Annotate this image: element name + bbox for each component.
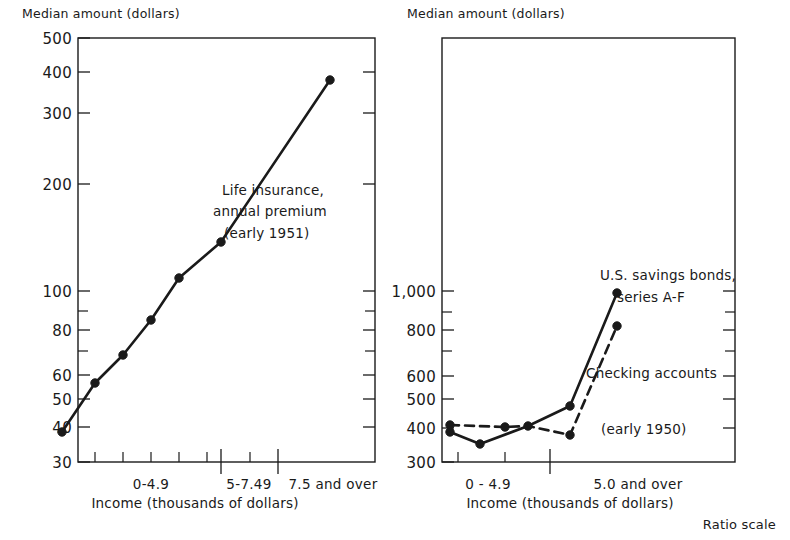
left-annotation-line1: Life insurance,	[222, 182, 324, 198]
left-x-axis-caption: Income (thousands of dollars)	[91, 495, 298, 511]
figure-root: Median amount (dollars)	[0, 0, 790, 540]
left-ytick-500: 500	[42, 30, 72, 48]
left-ytick-60: 60	[52, 367, 72, 385]
left-ytick-30: 30	[52, 454, 72, 472]
left-plot-frame	[78, 38, 375, 462]
left-xtick-5-7.49: 5-7.49	[226, 476, 271, 492]
right-chart-svg: 1,000 800 600 500 400 300 0 - 4.9 5.0 an…	[395, 0, 790, 540]
left-ytick-400: 400	[42, 64, 72, 82]
right-ytick-800: 800	[406, 322, 436, 340]
left-y-tick-labels: 500 400 300 200 100 80 60 50 40 30	[42, 30, 72, 472]
right-plot-frame	[442, 38, 735, 462]
right-ytick-1000: 1,000	[392, 283, 436, 301]
right-annotations: U.S. savings bonds, series A-F Checking …	[586, 267, 736, 437]
right-ytick-400: 400	[406, 420, 436, 438]
left-chart-svg: 500 400 300 200 100 80 60 50 40 30	[0, 0, 395, 540]
right-xtick-5.0-and-over: 5.0 and over	[593, 476, 682, 492]
chart-panel-right: Median amount (dollars)	[395, 0, 790, 540]
left-series-life-insurance-line	[62, 80, 330, 432]
right-x-tick-labels: 0 - 4.9 5.0 and over	[465, 476, 683, 492]
right-annotation-bonds-line1: U.S. savings bonds,	[600, 267, 736, 283]
left-ytick-100: 100	[42, 283, 72, 301]
left-annotation-line3: (early 1951)	[224, 225, 309, 241]
left-ytick-80: 80	[52, 322, 72, 340]
right-x-axis-caption: Income (thousands of dollars)	[466, 495, 673, 511]
ratio-scale-note: Ratio scale	[703, 517, 776, 532]
left-ytick-200: 200	[42, 176, 72, 194]
right-y-ticks-right	[723, 291, 735, 428]
chart-panel-left: Median amount (dollars)	[0, 0, 395, 540]
left-ytick-50: 50	[52, 391, 72, 409]
right-annotation-bonds-line2: series A-F	[617, 289, 685, 305]
right-annotation-date: (early 1950)	[601, 421, 686, 437]
right-ytick-300: 300	[406, 454, 436, 472]
left-annotation: Life insurance, annual premium (early 19…	[213, 182, 327, 241]
left-annotation-line2: annual premium	[213, 203, 327, 219]
right-ytick-600: 600	[406, 368, 436, 386]
left-y-ticks-right	[363, 72, 375, 427]
left-x-tick-labels: 0-4.9 5-7.49 7.5 and over	[133, 476, 378, 492]
right-xtick-0-4.9: 0 - 4.9	[465, 476, 511, 492]
right-ytick-500: 500	[406, 391, 436, 409]
left-series-markers	[58, 76, 334, 436]
right-y-ticks	[442, 291, 454, 462]
right-y-tick-labels: 1,000 800 600 500 400 300	[392, 283, 436, 472]
right-annotation-checking: Checking accounts	[586, 365, 717, 381]
left-ytick-300: 300	[42, 105, 72, 123]
left-xtick-7.5-and-over: 7.5 and over	[288, 476, 377, 492]
left-xtick-0-4.9: 0-4.9	[133, 476, 169, 492]
